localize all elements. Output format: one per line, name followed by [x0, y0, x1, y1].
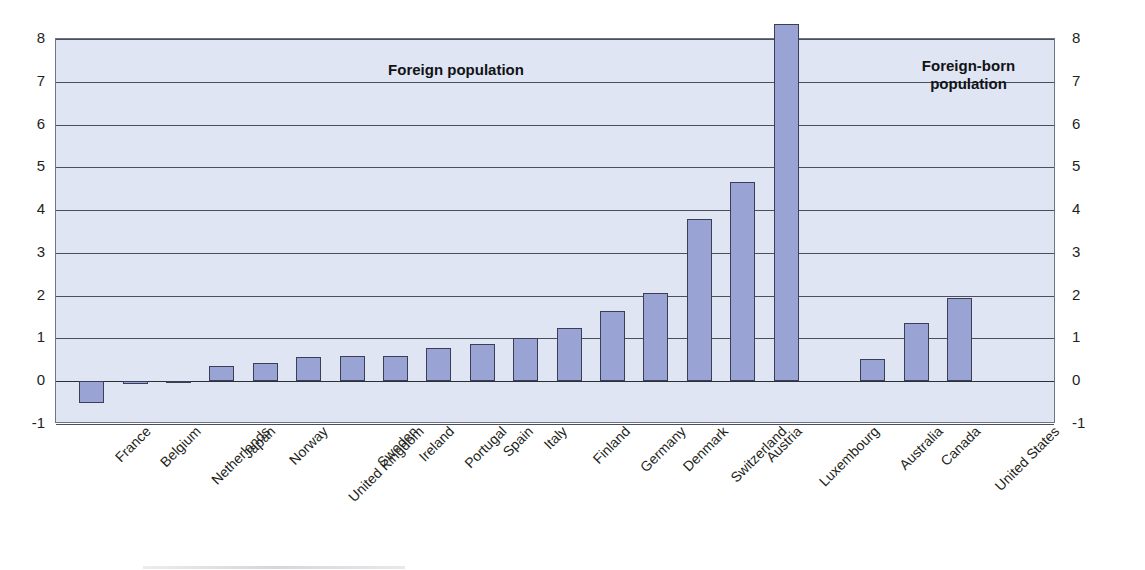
bar-sweden [340, 356, 365, 381]
bar-netherlands [166, 381, 191, 383]
bar-ireland [383, 356, 408, 382]
y-tick-left-4: 4 [0, 201, 45, 216]
bar-portugal [426, 348, 451, 381]
chart-container: 876543210-1 Foreign population Foreign-b… [0, 0, 1145, 570]
y-tick-left-1: 1 [0, 329, 45, 344]
x-label-spain: Spain [500, 423, 537, 460]
annotation-foreign-born-population: Foreign-born population [886, 57, 1051, 93]
y-tick-right-2: 2 [1072, 287, 1132, 302]
bar-finland [557, 328, 582, 381]
x-label-italy: Italy [540, 423, 569, 452]
plot-area: Foreign population Foreign-born populati… [55, 38, 1055, 423]
y-tick-left-7: 7 [0, 73, 45, 88]
x-label-australia: Australia [896, 423, 946, 473]
bar-spain [470, 344, 495, 381]
bar-belgium [123, 381, 148, 384]
bar-united-states [947, 298, 972, 381]
y-tick-left-0: 0 [0, 372, 45, 387]
bar-austria [730, 182, 755, 381]
y-tick-right-5: 5 [1072, 158, 1132, 173]
bar-canada [904, 323, 929, 381]
x-axis-category-labels: FranceBelgiumNetherlandsJapanNorwayUnite… [0, 423, 1145, 543]
x-label-united-states: United States [991, 423, 1062, 494]
bar-norway [253, 363, 278, 381]
bar-denmark [643, 293, 668, 382]
y-tick-right-3: 3 [1072, 244, 1132, 259]
x-label-germany: Germany [636, 423, 688, 475]
annotation-foreign-population: Foreign population [256, 61, 656, 79]
x-label-finland: Finland [590, 423, 634, 467]
x-label-belgium: Belgium [157, 423, 204, 470]
y-tick-left-8: 8 [0, 30, 45, 45]
x-label-denmark: Denmark [680, 423, 731, 474]
y-tick-right-6: 6 [1072, 116, 1132, 131]
bar-luxembourg [774, 24, 799, 381]
bar-italy [513, 338, 538, 381]
y-tick-left-2: 2 [0, 287, 45, 302]
y-tick-left-5: 5 [0, 158, 45, 173]
y-tick-left-3: 3 [0, 244, 45, 259]
y-tick-right-0: 0 [1072, 372, 1132, 387]
y-tick-right-8: 8 [1072, 30, 1132, 45]
bar-japan [209, 366, 234, 381]
x-label-france: France [111, 423, 153, 465]
y-tick-right-4: 4 [1072, 201, 1132, 216]
bar-united-kingdom [296, 357, 321, 381]
footer-cutoff-sliver [143, 566, 405, 569]
bar-switzerland [687, 219, 712, 382]
x-label-canada: Canada [938, 423, 984, 469]
x-label-norway: Norway [286, 423, 331, 468]
bar-france [79, 381, 104, 402]
y-tick-right-7: 7 [1072, 73, 1132, 88]
y-tick-left-6: 6 [0, 116, 45, 131]
y-tick-right-1: 1 [1072, 329, 1132, 344]
bar-germany [600, 311, 625, 382]
x-label-luxembourg: Luxembourg [816, 423, 882, 489]
bar-series [56, 39, 1054, 422]
bar-australia [860, 359, 885, 381]
